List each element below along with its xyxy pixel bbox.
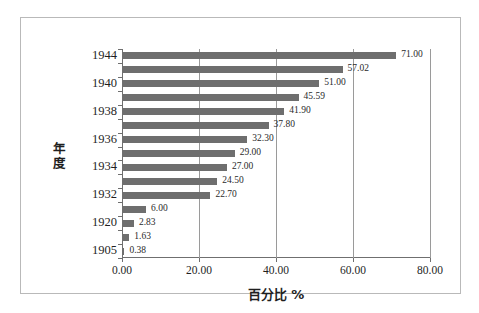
y-tick bbox=[118, 160, 122, 161]
bar-value-label: 45.59 bbox=[304, 92, 325, 101]
y-tick-label-1940: 1940 bbox=[92, 77, 117, 89]
y-tick-label-1932: 1932 bbox=[92, 188, 117, 200]
bar bbox=[123, 220, 134, 227]
x-tick-label: 80.00 bbox=[417, 264, 443, 276]
y-tick bbox=[118, 49, 122, 50]
y-tick bbox=[118, 105, 122, 106]
x-tick-label: 20.00 bbox=[186, 264, 212, 276]
bar-value-label: 32.30 bbox=[252, 134, 273, 143]
bar-value-label: 29.00 bbox=[240, 148, 261, 157]
gridline-80.00 bbox=[430, 49, 431, 258]
y-tick-label-1944: 1944 bbox=[92, 49, 117, 61]
bar bbox=[123, 66, 343, 73]
bar-value-label: 51.00 bbox=[324, 78, 345, 87]
x-axis-ticks-and-labels: 0.0020.0040.0060.0080.00 bbox=[122, 258, 430, 263]
bar bbox=[123, 178, 217, 185]
y-tick bbox=[118, 202, 122, 203]
bar-value-label: 24.50 bbox=[222, 176, 243, 185]
bar-value-label: 57.02 bbox=[348, 64, 369, 73]
y-tick bbox=[118, 91, 122, 92]
y-tick bbox=[118, 188, 122, 189]
y-tick bbox=[118, 133, 122, 134]
y-tick bbox=[118, 230, 122, 231]
bar-value-label: 2.83 bbox=[139, 218, 156, 227]
bar bbox=[123, 150, 235, 157]
y-tick bbox=[118, 119, 122, 120]
bar-value-label: 6.00 bbox=[151, 204, 168, 213]
bar-value-label: 71.00 bbox=[401, 50, 422, 59]
x-tick-label: 0.00 bbox=[112, 264, 132, 276]
gridline-60.00 bbox=[353, 49, 354, 258]
chart-screenshot: 年度 19441940193819361934193219201905 71.0… bbox=[0, 0, 479, 313]
x-tick-40.00 bbox=[276, 258, 277, 262]
y-tick bbox=[118, 147, 122, 148]
x-tick-20.00 bbox=[199, 258, 200, 262]
x-tick-60.00 bbox=[353, 258, 354, 262]
bar bbox=[123, 136, 247, 143]
bar bbox=[123, 52, 396, 59]
y-tick-label-1920: 1920 bbox=[92, 216, 117, 228]
bar-value-label: 27.00 bbox=[232, 162, 253, 171]
bar bbox=[123, 94, 299, 101]
bar-value-label: 37.80 bbox=[274, 120, 295, 129]
plot-area: 71.0057.0251.0045.5941.9037.8032.3029.00… bbox=[122, 49, 430, 258]
bar bbox=[123, 192, 210, 199]
bar-value-label: 22.70 bbox=[215, 190, 236, 199]
y-tick bbox=[118, 244, 122, 245]
x-tick-label: 40.00 bbox=[263, 264, 289, 276]
bar bbox=[123, 164, 227, 171]
y-tick bbox=[118, 63, 122, 64]
y-tick-label-1936: 1936 bbox=[92, 133, 117, 145]
x-tick-0.00 bbox=[122, 258, 123, 262]
y-axis-tick-labels: 19441940193819361934193219201905 bbox=[61, 49, 117, 258]
x-tick-label: 60.00 bbox=[340, 264, 366, 276]
bar-value-label: 1.63 bbox=[134, 232, 151, 241]
bar bbox=[123, 248, 124, 255]
figure-frame: 年度 19441940193819361934193219201905 71.0… bbox=[20, 17, 461, 294]
bar bbox=[123, 80, 319, 87]
x-axis-title: 百分比 % bbox=[122, 284, 430, 303]
y-tick-label-1934: 1934 bbox=[92, 160, 117, 172]
y-tick-label-1905: 1905 bbox=[92, 244, 117, 256]
bar bbox=[123, 206, 146, 213]
bar bbox=[123, 122, 269, 129]
bar bbox=[123, 234, 129, 241]
bar bbox=[123, 108, 284, 115]
y-tick bbox=[118, 77, 122, 78]
x-tick-80.00 bbox=[430, 258, 431, 262]
y-tick bbox=[118, 216, 122, 217]
bar-value-label: 41.90 bbox=[289, 106, 310, 115]
bar-value-label: 0.38 bbox=[129, 246, 146, 255]
y-tick-label-1938: 1938 bbox=[92, 105, 117, 117]
y-tick bbox=[118, 174, 122, 175]
